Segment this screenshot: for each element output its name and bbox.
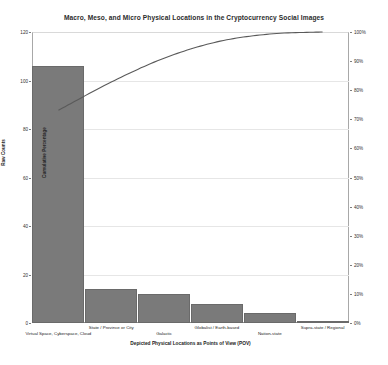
y-axis-left-tick-label: 100	[20, 78, 28, 83]
y-axis-left-title: Raw Counts	[1, 131, 6, 175]
y-axis-right-tick-mark	[350, 32, 352, 33]
y-axis-right-tick-label: 20%	[354, 262, 363, 267]
x-axis-tick-label: Nation-state	[258, 331, 282, 336]
y-axis-right-tick-mark	[350, 323, 352, 324]
x-axis-title: Depicted Physical Locations as Points of…	[32, 341, 349, 346]
y-axis-right-tick-label: 80%	[354, 88, 363, 93]
y-axis-right-tick-mark	[350, 178, 352, 179]
y-axis-left-tick-mark	[29, 81, 31, 82]
y-axis-left-tick-mark	[29, 32, 31, 33]
plot-area	[32, 32, 349, 323]
y-axis-right-tick-label: 30%	[354, 233, 363, 238]
y-axis-right: 0%10%20%30%40%50%60%70%80%90%100%	[350, 32, 388, 323]
x-axis-tick-label: Virtual Space, Cyberspace, Cloud	[25, 331, 91, 336]
y-axis-right-tick-mark	[350, 148, 352, 149]
y-axis-left-tick-label: 0	[25, 321, 28, 326]
y-axis-right-tick-label: 50%	[354, 175, 363, 180]
y-axis-right-tick-mark	[350, 207, 352, 208]
y-axis-right-tick-mark	[350, 236, 352, 237]
y-axis-right-tick-label: 0%	[354, 321, 361, 326]
cumulative-line-series	[32, 32, 349, 323]
y-axis-left-tick-mark	[29, 226, 31, 227]
y-axis-right-tick-label: 100%	[354, 30, 366, 35]
y-axis-left-tick-mark	[29, 323, 31, 324]
chart-title: Macro, Meso, and Micro Physical Location…	[0, 14, 388, 21]
y-axis-left-tick-label: 80	[23, 127, 28, 132]
x-axis: Depicted Physical Locations as Points of…	[32, 324, 349, 346]
y-axis-left-tick-label: 20	[23, 272, 28, 277]
y-axis-right-tick-label: 40%	[354, 204, 363, 209]
y-axis-right-tick-mark	[350, 90, 352, 91]
y-axis-right-tick-mark	[350, 294, 352, 295]
y-axis-right-tick-label: 10%	[354, 291, 363, 296]
y-axis-left-tick-mark	[29, 275, 31, 276]
y-axis-right-title: Cumulative Percentage	[42, 123, 47, 183]
x-axis-tick-label: Supra-state / Regional	[301, 325, 345, 330]
y-axis-right-tick-label: 90%	[354, 59, 363, 64]
y-axis-right-tick-mark	[350, 61, 352, 62]
y-axis-right-tick-mark	[350, 265, 352, 266]
y-axis-right-tick-mark	[350, 119, 352, 120]
y-axis-left-tick-label: 60	[23, 175, 28, 180]
y-axis-right-tick-label: 70%	[354, 117, 363, 122]
y-axis-right-tick-label: 60%	[354, 146, 363, 151]
y-axis-left-tick-label: 40	[23, 224, 28, 229]
pareto-chart: Macro, Meso, and Micro Physical Location…	[0, 0, 388, 365]
y-axis-left-tick-mark	[29, 129, 31, 130]
x-axis-tick-label: Galactic	[156, 331, 172, 336]
y-axis-left: 020406080100120	[0, 32, 31, 323]
y-axis-left-tick-mark	[29, 178, 31, 179]
y-axis-left-tick-label: 120	[20, 30, 28, 35]
x-axis-tick-label: Globalist / Earth-based	[195, 325, 240, 330]
x-axis-tick-label: State / Province or City	[89, 325, 134, 330]
